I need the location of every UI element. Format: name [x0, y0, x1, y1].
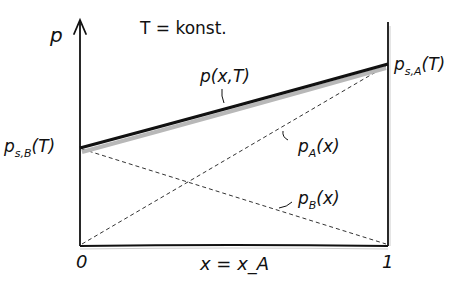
partial-B-label: pB(x): [297, 188, 340, 212]
x-min-label: 0: [76, 251, 87, 272]
total-pressure-label: p(x,T): [199, 66, 250, 86]
right-point-label: ps,A(T): [393, 54, 445, 78]
leader-partial-B: [279, 202, 292, 208]
raoult-diagram: p T = konst. p(x,T) ps,B(T) ps,A(T) pA(x…: [0, 0, 460, 286]
partial-A-label: pA(x): [297, 136, 340, 160]
leader-total: [222, 89, 224, 103]
x-axis: [80, 245, 388, 246]
left-point-label: ps,B(T): [3, 136, 55, 160]
title-label: T = konst.: [139, 18, 227, 38]
x-axis-shadow: [80, 248, 388, 249]
leader-partial-A: [283, 131, 288, 140]
y-axis-label: p: [49, 23, 63, 47]
x-max-label: 1: [382, 251, 393, 272]
partial-pressure-B-line: [82, 149, 386, 244]
x-axis-label: x = x_A: [199, 253, 269, 275]
partial-pressure-A-line: [82, 66, 386, 244]
